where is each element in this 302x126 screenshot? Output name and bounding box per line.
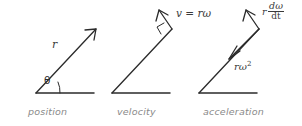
velocity-radius-line <box>112 29 172 93</box>
velocity-vector-label: v = rω <box>176 7 211 19</box>
centripetal-acceleration-label: rω2 <box>234 60 251 72</box>
fraction-numerator: dω <box>268 1 284 11</box>
tangential-label-lead: r <box>262 6 267 17</box>
centripetal-acceleration-vector <box>229 29 259 59</box>
caption-velocity: velocity <box>117 106 156 117</box>
fraction-denominator: dt <box>270 12 281 21</box>
angle-theta-label: θ <box>44 74 50 86</box>
tangential-acceleration-vector <box>246 10 259 29</box>
caption-acceleration: acceleration <box>203 106 264 117</box>
right-angle-marker-icon <box>157 23 164 34</box>
panel-acceleration-graphics <box>199 10 259 93</box>
caption-position: position <box>28 106 67 117</box>
centripetal-arrowhead-icon <box>229 46 240 59</box>
panel-velocity-graphics <box>112 10 172 93</box>
rotational-motion-diagram: r θ v = rω rω2 r dω dt position velocity… <box>0 0 302 126</box>
derivative-fraction: dω dt <box>268 1 284 21</box>
position-vector-label: r <box>52 38 57 51</box>
tangential-acceleration-label: r dω dt <box>262 1 284 21</box>
centripetal-label-exponent: 2 <box>247 60 251 68</box>
velocity-vector <box>159 10 172 29</box>
position-angle-arc <box>58 82 60 93</box>
centripetal-label-base: rω <box>234 61 247 72</box>
